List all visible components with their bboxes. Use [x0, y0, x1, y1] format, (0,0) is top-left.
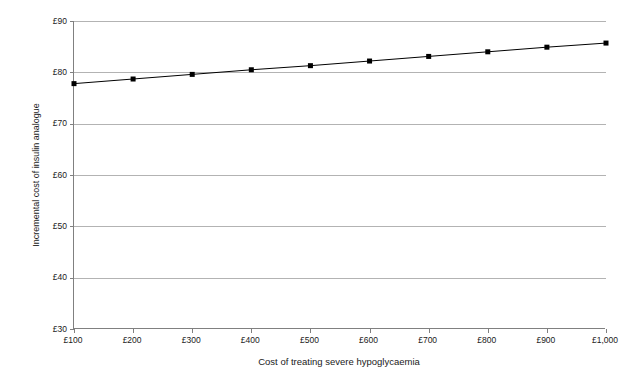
x-axis-tick-label: £800: [457, 336, 517, 345]
data-point-marker: [485, 49, 490, 54]
data-point-marker: [308, 63, 313, 68]
data-point-marker: [544, 45, 549, 50]
x-axis-title: Cost of treating severe hypoglycaemia: [73, 356, 605, 368]
y-axis-tick-label: £60: [7, 171, 67, 180]
y-axis-tick-label: £40: [7, 273, 67, 282]
x-axis-tick-mark: [547, 329, 548, 333]
data-point-marker: [249, 67, 254, 72]
data-point-marker: [426, 54, 431, 59]
data-point-marker: [190, 72, 195, 77]
x-axis-tick-label: £700: [398, 336, 458, 345]
x-axis-tick-mark: [606, 329, 607, 333]
y-axis-tick-label: £50: [7, 222, 67, 231]
plot-area: [73, 21, 605, 329]
data-point-marker: [131, 77, 136, 82]
data-point-marker: [367, 59, 372, 64]
y-axis-tick-label: £70: [7, 119, 67, 128]
x-axis-tick-mark: [429, 329, 430, 333]
x-axis-tick-label: £600: [339, 336, 399, 345]
y-axis-tick-label: £30: [7, 325, 67, 334]
x-axis-tick-label: £500: [279, 336, 339, 345]
y-axis-tick-label: £80: [7, 68, 67, 77]
x-axis-tick-mark: [133, 329, 134, 333]
x-axis-tick-mark: [488, 329, 489, 333]
series-line: [74, 43, 606, 84]
data-series-layer: [74, 21, 606, 329]
x-axis-tick-label: £900: [516, 336, 576, 345]
x-axis-tick-mark: [74, 329, 75, 333]
x-axis-tick-mark: [370, 329, 371, 333]
data-point-marker: [72, 81, 77, 86]
x-axis-tick-label: £100: [43, 336, 103, 345]
x-axis-tick-label: £400: [220, 336, 280, 345]
x-axis-tick-mark: [251, 329, 252, 333]
x-axis-tick-label: £1,000: [575, 336, 635, 345]
y-axis-tick-label: £90: [7, 17, 67, 26]
x-axis-tick-label: £300: [161, 336, 221, 345]
x-axis-tick-mark: [192, 329, 193, 333]
chart-figure: Incremental cost of insulin analogue Cos…: [0, 0, 644, 385]
x-axis-tick-label: £200: [102, 336, 162, 345]
x-axis-tick-mark: [310, 329, 311, 333]
data-point-marker: [604, 41, 609, 46]
